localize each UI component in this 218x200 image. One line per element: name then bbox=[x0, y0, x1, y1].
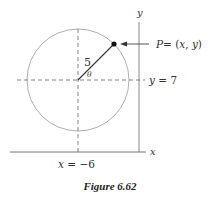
angle-label: θ bbox=[87, 70, 92, 79]
point-P bbox=[111, 41, 116, 46]
point-label-close: ) bbox=[198, 38, 202, 50]
horizontal-line-label-eq: = 7 bbox=[155, 74, 177, 86]
point-label: P= (x, y) bbox=[155, 38, 202, 50]
radius-label: 5 bbox=[84, 56, 91, 69]
x-axis-label: x bbox=[150, 146, 156, 157]
point-label-eq: = ( bbox=[163, 38, 179, 50]
diagram-canvas: 5 θ y x P= (x, y) y = 7 x = −6 Figure 6.… bbox=[0, 0, 218, 200]
figure-caption: Figure 6.62 bbox=[82, 180, 137, 192]
vertical-line-label-eq: = −6 bbox=[64, 158, 95, 170]
vertical-line-label: x = −6 bbox=[58, 158, 95, 170]
y-axis-label: y bbox=[136, 7, 143, 18]
horizontal-line-label: y = 7 bbox=[148, 74, 177, 86]
arrowhead-icon bbox=[120, 42, 127, 47]
point-label-comma: , bbox=[185, 38, 192, 50]
